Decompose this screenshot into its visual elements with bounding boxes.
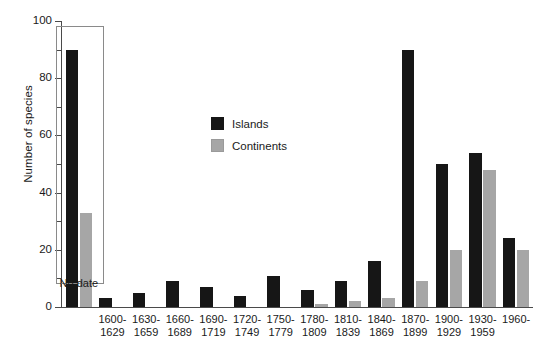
- bar-group: [466, 21, 500, 307]
- y-axis-tick-label: 0: [12, 300, 52, 312]
- y-axis-tick: [55, 21, 61, 22]
- bar-group: [62, 21, 96, 307]
- legend-label-continents: Continents: [232, 140, 287, 152]
- y-axis-tick: [55, 135, 61, 136]
- bar-group: [499, 21, 533, 307]
- legend-item-continents: Continents: [211, 139, 287, 152]
- bar-islands: [133, 293, 146, 307]
- y-axis-tick: [55, 307, 61, 308]
- y-axis-tick-label: 20: [12, 243, 52, 255]
- legend-swatch-continents-icon: [211, 139, 224, 152]
- bar-islands: [267, 276, 280, 307]
- y-axis-minor-tick: [57, 107, 61, 108]
- bar-islands: [368, 261, 381, 307]
- bar-group: [96, 21, 130, 307]
- legend-swatch-islands-icon: [211, 117, 224, 130]
- bar-group: [398, 21, 432, 307]
- legend-item-islands: Islands: [211, 117, 287, 130]
- no-date-caption: No date: [49, 277, 109, 289]
- chart-legend: Islands Continents: [211, 117, 287, 161]
- bar-group: [432, 21, 466, 307]
- bar-islands: [200, 287, 213, 307]
- y-axis-minor-tick: [57, 50, 61, 51]
- y-axis-tick: [55, 193, 61, 194]
- y-axis-minor-tick: [57, 164, 61, 165]
- y-axis-tick-label: 60: [12, 128, 52, 140]
- bar-islands: [469, 153, 482, 307]
- bar-continents: [416, 281, 429, 307]
- bar-group: [129, 21, 163, 307]
- bar-islands: [335, 281, 348, 307]
- bar-group: [264, 21, 298, 307]
- x-axis-tick-label: 1960-: [492, 313, 535, 326]
- bar-group: [298, 21, 332, 307]
- bar-group: [230, 21, 264, 307]
- bar-continents: [517, 250, 530, 307]
- bar-continents: [483, 170, 496, 307]
- bar-continents: [450, 250, 463, 307]
- bar-islands: [234, 296, 247, 307]
- bar-continents: [315, 304, 328, 307]
- bar-islands: [436, 164, 449, 307]
- bar-islands: [66, 50, 79, 307]
- bar-chart: Number of species 020406080100 No date 1…: [0, 0, 535, 355]
- bar-group: [197, 21, 231, 307]
- bar-continents: [382, 298, 395, 307]
- bar-islands: [166, 281, 179, 307]
- bar-islands: [301, 290, 314, 307]
- bar-group: [163, 21, 197, 307]
- y-axis-tick-label: 40: [12, 186, 52, 198]
- bar-continents: [349, 301, 362, 307]
- bar-continents: [80, 213, 93, 307]
- y-axis-tick: [55, 78, 61, 79]
- y-axis-tick: [55, 250, 61, 251]
- bar-group: [331, 21, 365, 307]
- bar-islands: [402, 50, 415, 307]
- plot-area: [62, 21, 533, 307]
- y-axis-tick-label: 80: [12, 71, 52, 83]
- bar-islands: [99, 298, 112, 307]
- bar-islands: [503, 238, 516, 307]
- x-axis-line: [61, 307, 533, 308]
- y-axis-tick-label: 100: [12, 14, 52, 26]
- bar-group: [365, 21, 399, 307]
- legend-label-islands: Islands: [232, 118, 268, 130]
- y-axis-minor-tick: [57, 221, 61, 222]
